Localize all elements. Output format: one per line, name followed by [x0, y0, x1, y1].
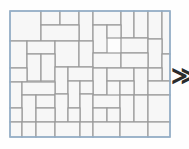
- paving-tile: [162, 11, 170, 54]
- paving-tile: [148, 95, 170, 122]
- paving-tile: [148, 81, 170, 95]
- paving-tile: [134, 95, 148, 122]
- paving-tile: [68, 67, 93, 81]
- paving-tile: [55, 122, 80, 137]
- diagram-page: ≫: [0, 0, 189, 149]
- paving-tile: [79, 11, 93, 41]
- paving-tile: [93, 68, 107, 95]
- paving-tile: [107, 108, 120, 122]
- paving-tile: [10, 11, 41, 41]
- paving-tile: [107, 68, 134, 81]
- paving-tile: [10, 82, 22, 108]
- paving-tile: [10, 122, 22, 137]
- paving-tile: [134, 68, 148, 95]
- paving-tile: [121, 53, 148, 68]
- paving-tile: [120, 81, 134, 95]
- paving-tile: [68, 81, 80, 108]
- paving-tile: [134, 11, 148, 38]
- paving-tile: [93, 53, 121, 68]
- paving-tile: [22, 95, 36, 122]
- paving-tile: [80, 81, 93, 94]
- paving-tile: [121, 38, 148, 53]
- paving-tile: [162, 54, 170, 81]
- paving-tile: [148, 39, 162, 68]
- paving-tile: [41, 25, 79, 41]
- paving-tile: [148, 68, 162, 81]
- paving-tile: [36, 122, 55, 137]
- paving-tile: [120, 95, 134, 122]
- paving-tile: [80, 122, 93, 137]
- paving-tile: [41, 11, 60, 25]
- paving-tile: [148, 11, 162, 39]
- paving-tile: [107, 25, 121, 38]
- paving-tile: [68, 108, 80, 122]
- paving-tile: [93, 108, 107, 122]
- paving-tile: [148, 122, 170, 137]
- paving-tile: [60, 11, 79, 25]
- paving-pattern-svg: [9, 10, 171, 138]
- paving-tile: [93, 122, 120, 137]
- paving-tile: [10, 68, 27, 82]
- paving-tile: [27, 54, 41, 81]
- paving-tile: [22, 82, 55, 95]
- paving-tile: [55, 41, 79, 67]
- paving-tile: [41, 54, 55, 81]
- paving-tile: [93, 95, 120, 108]
- continuation-chevron-icon: ≫: [171, 62, 189, 88]
- paving-tile: [10, 108, 22, 122]
- paving-tile: [79, 41, 93, 67]
- paving-tile: [55, 67, 68, 94]
- paving-tile: [93, 25, 107, 53]
- paving-tile: [36, 95, 55, 108]
- paving-tile: [27, 41, 55, 54]
- paving-tile: [80, 94, 93, 122]
- paving-pattern-figure: [9, 10, 171, 138]
- paving-tile: [22, 122, 36, 137]
- paving-tile: [10, 41, 27, 68]
- paving-tile: [55, 94, 68, 122]
- paving-tile: [121, 11, 134, 38]
- paving-tile: [93, 11, 121, 25]
- paving-tile: [120, 122, 148, 137]
- tile-layer: [10, 11, 170, 137]
- paving-tile: [36, 108, 55, 122]
